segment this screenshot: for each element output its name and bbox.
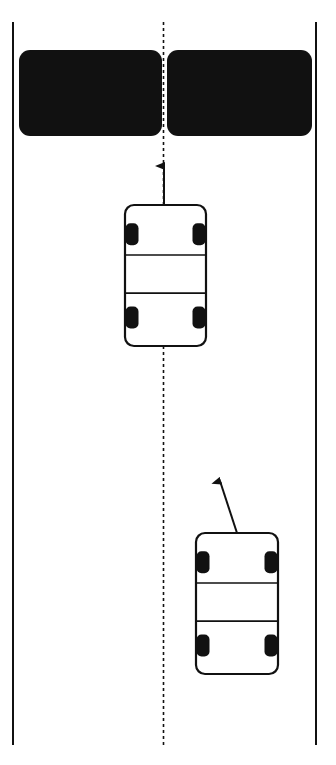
left-lane-obstacle [19, 50, 162, 136]
wheel-icon [197, 551, 210, 573]
wheel-icon [193, 223, 206, 245]
wheel-icon [193, 307, 206, 329]
direction-arrow-icon [220, 481, 237, 533]
wheel-icon [265, 635, 278, 657]
wheel-icon [126, 223, 139, 245]
road-diagram [0, 0, 336, 765]
car-center [125, 166, 206, 346]
car-right [196, 481, 278, 674]
wheel-icon [197, 635, 210, 657]
right-lane-obstacle [167, 50, 312, 136]
wheel-icon [265, 551, 278, 573]
wheel-icon [126, 307, 139, 329]
